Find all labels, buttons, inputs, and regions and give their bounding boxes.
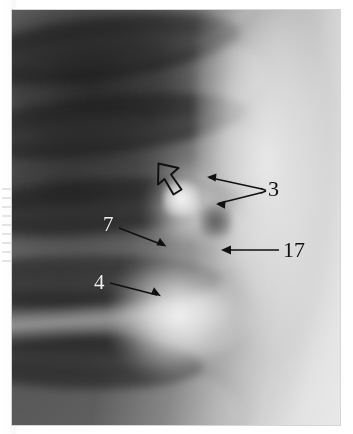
film-grain-texture xyxy=(12,10,340,425)
scan-margin-artifact xyxy=(2,188,11,264)
radiograph-image xyxy=(12,10,340,425)
figure-root: 3 7 17 4 xyxy=(0,0,353,434)
